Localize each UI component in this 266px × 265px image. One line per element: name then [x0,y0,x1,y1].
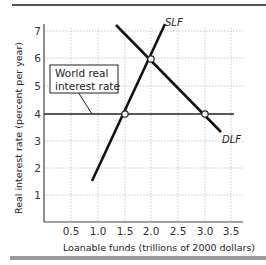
point-slf-world [122,111,128,117]
callout-line2: interest rate [55,80,120,92]
dlf-label: DLF [222,134,241,145]
svg-text:6: 6 [34,52,41,64]
callout-line1: World real [55,67,108,79]
svg-text:2.5: 2.5 [170,225,187,237]
x-tick-labels: 0.5 1.0 1.5 2.0 2.5 3.0 3.5 [63,225,240,237]
svg-text:0.5: 0.5 [63,225,80,237]
loanable-funds-chart: 7 6 5 4 3 2 1 0.5 1.0 1.5 2.0 2.5 3.0 3.… [0,0,266,265]
callout-leader [78,92,92,114]
grid-horizontal [44,31,243,195]
point-equilibrium [148,56,154,62]
svg-text:5: 5 [34,80,41,92]
svg-text:3.5: 3.5 [223,225,240,237]
y-tick-labels: 7 6 5 4 3 2 1 [34,25,41,201]
point-dlf-world [202,111,208,117]
svg-text:2: 2 [34,162,41,174]
svg-text:7: 7 [34,25,41,37]
bottom-rule [10,256,266,260]
svg-text:1.0: 1.0 [90,225,107,237]
svg-text:1: 1 [34,189,41,201]
svg-text:1.5: 1.5 [117,225,134,237]
svg-text:3.0: 3.0 [197,225,214,237]
x-axis-label: Loanable funds (trillions of 2000 dollar… [63,242,255,253]
slf-curve [92,24,165,181]
svg-text:2.0: 2.0 [143,225,160,237]
svg-text:3: 3 [34,135,41,147]
y-axis-label: Real interest rate (percent per year) [13,42,24,214]
svg-text:4: 4 [34,108,41,120]
slf-label: SLF [165,17,183,28]
